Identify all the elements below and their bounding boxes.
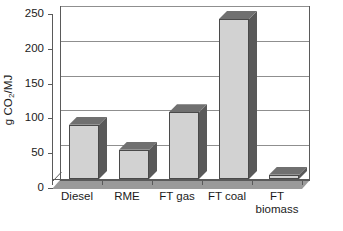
bar-side-face	[199, 104, 207, 179]
bar-chart: g CO2/MJ 050100150200250 DieselRMEFT gas…	[0, 0, 343, 231]
y-axis-tick	[48, 49, 53, 50]
bar	[219, 5, 249, 179]
bar	[169, 5, 199, 179]
x-axis-line	[52, 179, 302, 180]
y-axis-title-prefix: g CO	[2, 98, 14, 125]
x-axis-tick-labels: DieselRMEFT gasFT coalFT biomass	[52, 190, 310, 230]
x-axis-tick	[302, 180, 303, 185]
x-axis-tick	[102, 180, 103, 185]
bar-side-face	[249, 11, 257, 179]
bar	[69, 5, 99, 179]
y-axis-tick-label: 0	[14, 182, 44, 193]
bar-side-face	[99, 117, 107, 179]
y-axis-tick-label: 200	[14, 43, 44, 54]
bar-front-face	[219, 19, 249, 179]
bar	[269, 5, 299, 179]
x-axis-tick	[252, 180, 253, 185]
bar	[119, 5, 149, 179]
x-axis-tick	[202, 180, 203, 185]
bar-front-face	[169, 112, 199, 179]
bar-front-face	[119, 150, 149, 179]
y-axis-tick-labels: 050100150200250	[14, 0, 44, 231]
x-axis-tick	[152, 180, 153, 185]
y-axis-tick-label: 250	[14, 8, 44, 19]
y-axis-tick-label: 50	[14, 147, 44, 158]
plot-area	[52, 6, 310, 188]
x-axis-tick-label: FT biomass	[244, 190, 310, 216]
y-axis-tick	[48, 118, 53, 119]
x-axis-tick	[52, 180, 53, 185]
y-axis-line	[52, 14, 53, 180]
plot-floor-top-edge	[60, 180, 310, 181]
y-axis-tick-label: 150	[14, 78, 44, 89]
plot-floor	[52, 180, 310, 189]
y-axis-tick	[48, 188, 53, 189]
plot-back-wall	[60, 6, 310, 180]
y-axis-tick	[48, 14, 53, 15]
y-axis-title-suffix: /MJ	[2, 75, 14, 94]
y-axis-tick	[48, 84, 53, 85]
bar-front-face	[69, 125, 99, 179]
y-axis-tick-label: 100	[14, 112, 44, 123]
y-axis-tick	[48, 153, 53, 154]
